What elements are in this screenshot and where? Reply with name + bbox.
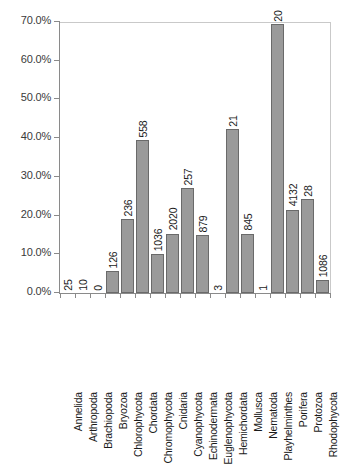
- bar-value-label: 20: [272, 10, 284, 21]
- x-axis-tick-mark: [210, 293, 211, 298]
- x-axis-label: Rhodophycota: [327, 392, 339, 457]
- bar-rect: [301, 199, 314, 293]
- bar-value-label: 1036: [152, 229, 164, 252]
- y-axis-tick-label: 10.0%: [0, 246, 51, 258]
- bar-rect: [271, 24, 284, 293]
- bar-series: 2510012623655810362020257879321845120413…: [60, 22, 330, 293]
- y-axis-tick-label: 40.0%: [0, 130, 51, 142]
- bar-value-label: 845: [242, 214, 254, 231]
- x-axis-label: Cnidaria: [177, 392, 189, 430]
- y-axis-tick-label: 30.0%: [0, 169, 51, 181]
- x-axis-tick-mark: [270, 293, 271, 298]
- bar-rect: [106, 271, 119, 293]
- x-axis-label: Bryozoa: [117, 392, 129, 429]
- bar-rect: [121, 219, 134, 293]
- bar-item: 879: [195, 22, 210, 293]
- x-axis-label: Annelida: [72, 392, 84, 431]
- bar-item: 1036: [150, 22, 165, 293]
- x-axis-tick-mark: [60, 293, 61, 298]
- bar-item: 0: [90, 22, 105, 293]
- bar-rect: [196, 235, 209, 293]
- x-axis-tick-mark: [165, 293, 166, 298]
- y-axis-tick-label: 70.0%: [0, 14, 51, 26]
- bar-item: 845: [240, 22, 255, 293]
- x-axis-label: Porifera: [297, 392, 309, 427]
- x-axis-tick-mark: [135, 293, 136, 298]
- bar-item: 28: [300, 22, 315, 293]
- bar-item: 4132: [285, 22, 300, 293]
- x-axis-label: Chordata: [147, 392, 159, 434]
- bar-rect: [286, 210, 299, 293]
- bar-value-label: 257: [182, 169, 194, 186]
- x-axis-label: Hemichordata: [237, 392, 249, 455]
- x-axis-label: Nematoda: [267, 392, 279, 439]
- x-axis-tick-mark: [285, 293, 286, 298]
- x-axis-tick-mark: [90, 293, 91, 298]
- bar-value-label: 879: [197, 215, 209, 232]
- bar-value-label: 25: [62, 279, 74, 290]
- x-axis-tick-mark: [195, 293, 196, 298]
- bar-value-label: 1086: [317, 255, 329, 278]
- bar-item: 126: [105, 22, 120, 293]
- bar-item: 2020: [165, 22, 180, 293]
- x-axis-labels: AnnelidaArthropodaBrachiopodaBryozoaChlo…: [60, 300, 330, 396]
- x-axis-label: Arthropoda: [87, 392, 99, 442]
- x-axis-tick-mark: [225, 293, 226, 298]
- bar-rect: [151, 254, 164, 293]
- y-axis-tick-label: 50.0%: [0, 91, 51, 103]
- bar-item: 236: [120, 22, 135, 293]
- x-axis-tick-mark: [75, 293, 76, 298]
- x-axis-label: Chromophycota: [162, 392, 174, 464]
- bar-rect: [181, 188, 194, 293]
- y-axis-tick-label: 20.0%: [0, 208, 51, 220]
- bar-item: 3: [210, 22, 225, 293]
- bar-value-label: 1: [257, 285, 269, 291]
- x-axis-label: Mollusca: [252, 392, 264, 432]
- bar-value-label: 558: [137, 120, 149, 137]
- bar-rect: [316, 280, 329, 293]
- bar-item: 20: [270, 22, 285, 293]
- bar-value-label: 28: [302, 185, 314, 196]
- bar-value-label: 236: [122, 200, 134, 217]
- bar-rect: [136, 140, 149, 293]
- bar-item: 10: [75, 22, 90, 293]
- x-axis-label: Cyanophycota: [192, 392, 204, 457]
- x-axis-label: Protozoa: [312, 392, 324, 432]
- x-axis-label: Chlorophycota: [132, 392, 144, 457]
- bar-rect: [166, 234, 179, 293]
- bar-value-label: 4132: [287, 184, 299, 207]
- x-axis-tick-mark: [300, 293, 301, 298]
- x-axis-tick-mark: [180, 293, 181, 298]
- x-axis-label: Playhelminthes: [282, 392, 294, 460]
- x-axis-tick-mark: [105, 293, 106, 298]
- x-axis-tick-mark: [315, 293, 316, 298]
- bar-value-label: 2020: [167, 208, 179, 231]
- bar-value-label: 21: [227, 115, 239, 126]
- bar-value-label: 0: [92, 285, 104, 291]
- y-axis-tick-label: 0.0%: [0, 285, 51, 297]
- plot-border-right: [330, 22, 331, 294]
- y-axis-tick-label: 60.0%: [0, 53, 51, 65]
- x-axis-tick-mark: [240, 293, 241, 298]
- bar-item: 558: [135, 22, 150, 293]
- bar-item: 257: [180, 22, 195, 293]
- x-axis-tick-mark: [330, 293, 331, 298]
- x-axis-label: Brachiopoda: [102, 392, 114, 449]
- bar-value-label: 3: [212, 285, 224, 291]
- x-axis-tick-mark: [120, 293, 121, 298]
- x-axis-tick-mark: [150, 293, 151, 298]
- x-axis-label: Echinodermata: [207, 392, 219, 460]
- bar-item: 1: [255, 22, 270, 293]
- bar-value-label: 126: [107, 252, 119, 269]
- x-axis-label: Euglenophycota: [222, 392, 234, 465]
- bar-rect: [241, 234, 254, 293]
- bar-value-label: 10: [77, 279, 89, 290]
- bar-item: 21: [225, 22, 240, 293]
- x-axis-tick-mark: [255, 293, 256, 298]
- bar-item: 25: [60, 22, 75, 293]
- bar-rect: [226, 129, 239, 293]
- bar-item: 1086: [315, 22, 330, 293]
